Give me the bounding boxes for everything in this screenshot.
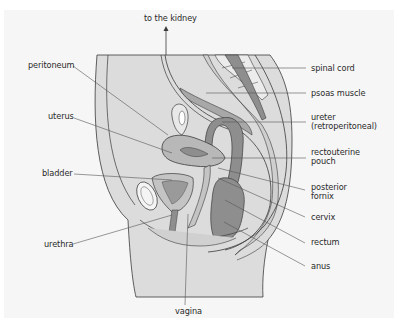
label-rectouterine-line2: pouch [311, 157, 360, 166]
label-anus: anus [311, 262, 330, 271]
label-posterior-fornix: posterior fornix [311, 183, 347, 201]
ovary-inner [179, 111, 185, 125]
label-uterus: uterus [48, 112, 74, 121]
up-arrow-icon [164, 26, 169, 31]
label-posterior-fornix-line2: fornix [311, 192, 347, 201]
label-psoas-muscle: psoas muscle [311, 89, 365, 98]
label-cervix: cervix [311, 213, 335, 222]
label-bladder: bladder [42, 169, 73, 178]
label-vagina: vagina [175, 307, 202, 316]
label-ureter: ureter (retroperitoneal) [311, 113, 377, 131]
label-urethra: urethra [44, 240, 74, 249]
label-to-the-kidney: to the kidney [144, 14, 197, 23]
label-rectum: rectum [311, 238, 340, 247]
label-peritoneum: peritoneum [28, 61, 75, 70]
label-rectouterine-pouch: rectouterine pouch [311, 148, 360, 166]
label-spinal-cord: spinal cord [311, 64, 355, 73]
label-ureter-line2: (retroperitoneal) [311, 122, 377, 131]
